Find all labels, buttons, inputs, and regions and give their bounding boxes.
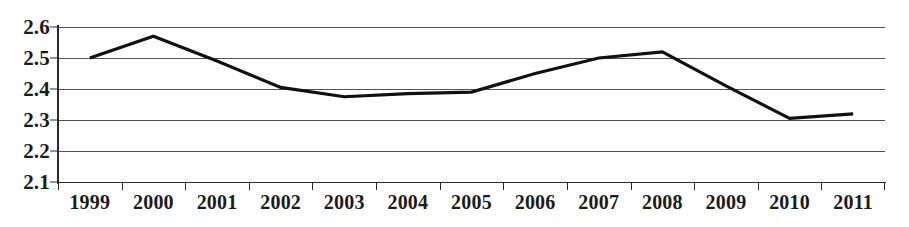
x-axis-tick-label: 2007 <box>578 192 619 212</box>
x-axis-tick <box>249 182 250 190</box>
x-axis-tick-label: 2000 <box>133 192 174 212</box>
gridline <box>58 151 885 152</box>
x-axis-tick <box>185 182 186 190</box>
x-axis-tick <box>503 182 504 190</box>
y-axis-labels: 2.6 2.5 2.4 2.3 2.2 2.1 <box>0 0 54 196</box>
x-axis-labels: 1999200020012002200320042005200620072008… <box>0 192 909 222</box>
gridline <box>58 27 885 28</box>
x-axis-tick <box>440 182 441 190</box>
x-axis-line <box>58 182 886 183</box>
y-axis-tick-label: 2.4 <box>23 79 50 100</box>
x-axis-tick <box>758 182 759 190</box>
x-axis-tick <box>312 182 313 190</box>
x-axis-tick-label: 2006 <box>515 192 556 212</box>
x-axis-tick-label: 2011 <box>833 192 873 212</box>
x-axis-tick-label: 2005 <box>451 192 492 212</box>
x-axis-tick <box>567 182 568 190</box>
x-axis-tick <box>821 182 822 190</box>
x-axis-tick-label: 2002 <box>260 192 301 212</box>
x-axis-tick <box>122 182 123 190</box>
y-axis-line <box>57 25 59 184</box>
x-axis-tick <box>58 182 59 190</box>
x-axis-end-tick <box>884 182 885 190</box>
x-axis-tick-label: 2001 <box>197 192 238 212</box>
x-axis-tick-label: 2004 <box>387 192 428 212</box>
plot-area <box>58 27 885 182</box>
gridline <box>58 58 885 59</box>
x-axis-tick-label: 2003 <box>324 192 365 212</box>
x-axis-tick <box>631 182 632 190</box>
y-axis-tick-label: 2.3 <box>23 110 50 131</box>
x-axis-tick-label: 2010 <box>769 192 810 212</box>
gridline <box>58 120 885 121</box>
y-axis-tick-label: 2.5 <box>23 48 50 69</box>
x-axis-tick <box>694 182 695 190</box>
y-axis-tick-label: 2.2 <box>23 141 50 162</box>
gridline <box>58 89 885 90</box>
x-axis-tick <box>376 182 377 190</box>
x-axis-tick-label: 2009 <box>706 192 747 212</box>
y-axis-tick-label: 2.1 <box>23 172 50 193</box>
y-axis-tick-label: 2.6 <box>23 17 50 38</box>
x-axis-tick-label: 2008 <box>642 192 683 212</box>
line-chart: 2.6 2.5 2.4 2.3 2.2 2.1 1999200020012002… <box>0 0 909 227</box>
x-axis-tick-label: 1999 <box>69 192 110 212</box>
